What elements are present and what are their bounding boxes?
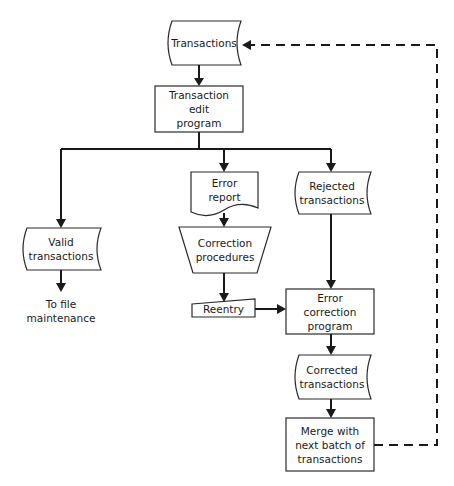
node-merge: Merge with next batch of transactions xyxy=(286,418,374,471)
node-reentry: Reentry xyxy=(192,301,255,317)
node-valid-transactions: Valid transactions xyxy=(19,228,103,270)
node-edit-program: Transaction edit program xyxy=(155,86,243,132)
node-transactions: Transactions xyxy=(164,21,244,65)
node-correction-procedures: Correction procedures xyxy=(179,227,271,273)
node-rejected-transactions: Rejected transactions xyxy=(291,172,373,214)
node-to-file-maintenance: To file maintenance xyxy=(21,296,101,326)
node-error-correction-program: Error correction program xyxy=(286,289,374,334)
node-corrected-transactions: Corrected transactions xyxy=(291,355,373,399)
node-error-report: Error report xyxy=(191,172,258,208)
